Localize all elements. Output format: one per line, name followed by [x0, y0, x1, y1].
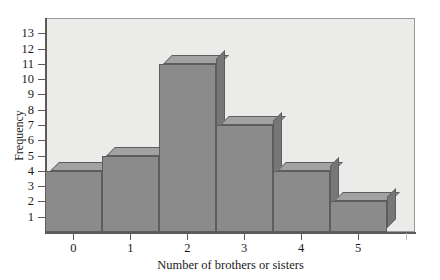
bar-front-face	[159, 64, 216, 232]
y-axis-tick-label: 12	[8, 42, 34, 55]
y-axis-tick	[38, 64, 46, 65]
y-axis-tick	[38, 140, 46, 141]
y-axis-tick-label: 2	[8, 195, 34, 208]
bar-front-face	[102, 156, 159, 232]
y-axis-tick	[38, 79, 46, 80]
bar-front-face	[273, 171, 330, 232]
x-axis-tick-label: 2	[172, 242, 202, 255]
bar	[330, 192, 396, 232]
y-axis-title: Frequency	[12, 76, 27, 196]
y-axis-tick	[38, 110, 46, 111]
x-axis-tick	[73, 233, 74, 240]
x-axis-spine	[45, 232, 416, 234]
y-axis-tick	[38, 94, 46, 95]
y-axis-tick	[38, 125, 46, 126]
x-axis-tick	[301, 233, 302, 240]
x-axis-tick-label: 0	[58, 242, 88, 255]
y-axis-tick-label: 1	[8, 210, 34, 223]
bar-front-face	[45, 171, 102, 232]
y-axis-tick-label: 13	[8, 27, 34, 40]
y-axis-tick	[38, 156, 46, 157]
y-axis-tick-label: 11	[8, 58, 34, 71]
x-axis-tick	[244, 233, 245, 240]
bar-front-face	[216, 125, 273, 232]
x-axis-tick-label: 4	[286, 242, 316, 255]
histogram-figure: 12345678910111213 Frequency 012345 Numbe…	[0, 0, 440, 280]
x-axis-tick	[358, 233, 359, 240]
y-axis-tick	[38, 49, 46, 50]
bar-front-face	[330, 201, 387, 232]
x-axis-tick-label: 5	[343, 242, 373, 255]
x-axis-tick	[187, 233, 188, 240]
x-axis-tick-label: 1	[115, 242, 145, 255]
x-axis-tick-trailing	[406, 233, 407, 240]
x-axis-title: Number of brothers or sisters	[45, 258, 416, 273]
y-axis-tick	[38, 33, 46, 34]
x-axis-tick	[130, 233, 131, 240]
x-axis-tick-label: 3	[229, 242, 259, 255]
